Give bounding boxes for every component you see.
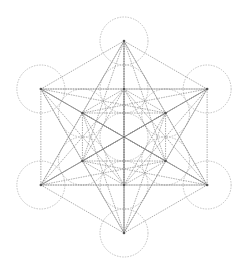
connecting-line — [124, 185, 207, 233]
node-dot-4 — [123, 184, 126, 187]
node-dot-6 — [81, 112, 84, 115]
node-dot-9 — [206, 184, 209, 187]
node-dot-10 — [123, 232, 126, 235]
connecting-line — [82, 41, 124, 161]
connecting-line — [82, 161, 207, 185]
connecting-line — [124, 41, 207, 89]
node-dot-1 — [123, 88, 126, 91]
node-dot-0 — [123, 136, 125, 138]
node-dot-5 — [81, 160, 84, 163]
node-dot-11 — [40, 184, 43, 187]
node-dot-3 — [164, 160, 167, 163]
connecting-line — [41, 41, 124, 89]
node-dot-8 — [206, 88, 209, 91]
connecting-line — [82, 113, 124, 233]
node-dot-7 — [123, 40, 126, 43]
node-dot-12 — [40, 88, 43, 91]
connecting-line — [82, 89, 207, 113]
node-dot-2 — [164, 112, 167, 115]
connecting-line — [41, 185, 124, 233]
metatrons-cube-diagram — [0, 0, 244, 258]
